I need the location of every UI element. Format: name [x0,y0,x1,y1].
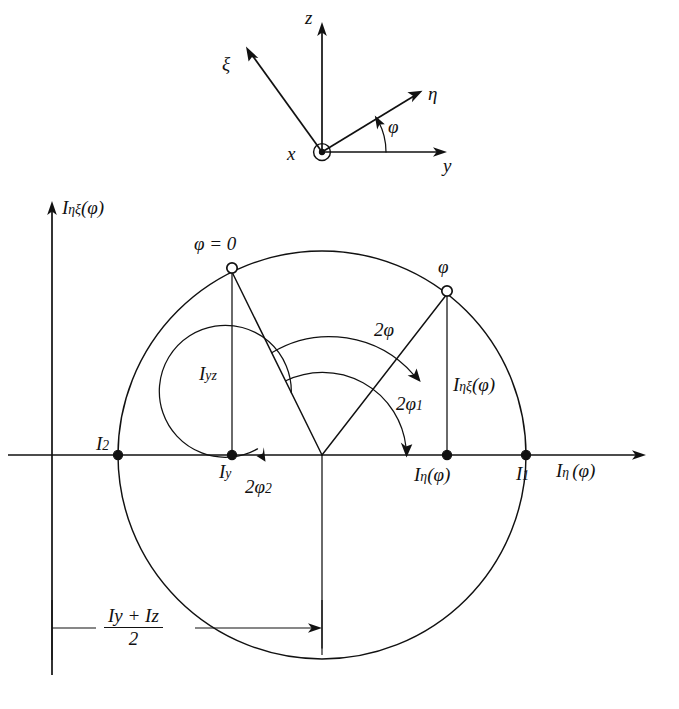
two-phi-arc-label: 2φ [374,319,394,340]
i1-point-marker [521,450,530,459]
phi-point-marker [442,286,452,296]
xi-axis-arrowhead [246,47,258,62]
two-phi-1-arc [286,372,406,447]
figure-root: x z y η ξ φ [0,0,679,709]
i-eta-xi-phi-segment-label: Iηξ(φ) [452,374,495,396]
eta-axis-arrowhead [407,91,422,103]
two-phi-2-arc [159,325,291,457]
mean-inertia-numerator: Iy + Iz [104,606,163,628]
i1-point-label: I1 [515,463,529,484]
x-axis-out-of-page-dot [319,149,324,154]
xi-axis-line [252,55,322,152]
mean-inertia-denominator: 2 [104,628,163,649]
phi-angle-label: φ [388,116,399,137]
radius-to-phi-zero-line [232,272,322,455]
iyz-segment-label: Iyz [198,363,217,384]
eta-axis-line [322,96,414,152]
phi-zero-point-label: φ = 0 [194,233,237,254]
axes-orientation-sketch: x z y η ξ φ [222,7,452,176]
eta-axis-label: η [428,83,437,104]
mohr-horizontal-axis-label: Iη(φ) [555,460,595,482]
phi-angle-arc [379,122,386,152]
y-axis-label: y [441,155,452,176]
i2-point-marker [113,450,122,459]
mohr-vertical-axis-label: Iηξ(φ) [61,197,104,219]
i-eta-phi-point-marker [442,450,451,459]
mohr-circle-diagram: Iηξ(φ) Iη(φ) φ = 0 φ I2 I1 Iy Iη(φ) Iyz … [8,197,646,675]
iy-point-label: Iy [218,461,232,482]
i2-point-label: I2 [95,433,109,454]
x-axis-label: x [286,143,296,164]
z-axis-label: z [304,7,313,28]
figure-canvas: x z y η ξ φ [0,0,679,709]
two-phi-2-arc-label: 2φ2 [245,476,272,497]
phi-zero-point-marker [227,263,237,273]
phi-point-label: φ [438,256,449,277]
two-phi-1-arc-label: 2φ1 [396,393,423,414]
xi-axis-label: ξ [222,53,231,74]
two-phi-arc [272,337,414,375]
mean-inertia-dimension-label: Iy + Iz 2 [104,606,163,649]
i-eta-phi-point-label: Iη(φ) [413,464,450,486]
iy-point-marker [227,450,236,459]
